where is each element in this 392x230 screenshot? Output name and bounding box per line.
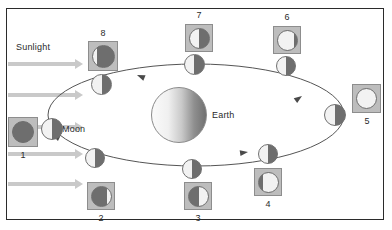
phase-disc-waning-gibbous xyxy=(277,30,298,51)
phase-disc-full-moon xyxy=(356,88,377,109)
sunlight-arrow-5 xyxy=(8,182,76,186)
orbital-moon-position-7 xyxy=(184,54,205,75)
phase-number-label-2: 2 xyxy=(91,213,111,223)
moon-label: Moon xyxy=(62,124,85,134)
earth-sphere xyxy=(151,87,207,143)
earth-label: Earth xyxy=(212,110,235,120)
orbital-moon-position-1 xyxy=(41,118,63,140)
phase-number-label-8: 8 xyxy=(93,28,113,38)
orbital-moon-position-2 xyxy=(85,148,105,168)
phase-box-7 xyxy=(185,24,213,52)
sunlight-label: Sunlight xyxy=(16,42,50,52)
phase-number-label-3: 3 xyxy=(188,213,208,223)
phase-box-6 xyxy=(273,26,301,54)
phase-number-label-7: 7 xyxy=(189,10,209,20)
phase-disc-waxing-gibbous xyxy=(258,172,279,193)
phase-number-label-5: 5 xyxy=(357,116,377,126)
phase-box-2 xyxy=(87,182,115,210)
phase-number-label-4: 4 xyxy=(258,199,278,209)
phase-disc-first-quarter xyxy=(188,186,209,207)
phase-box-5 xyxy=(352,84,381,113)
phase-box-1 xyxy=(8,117,38,147)
phase-number-label-1: 1 xyxy=(13,150,33,160)
phase-number-label-6: 6 xyxy=(277,12,297,22)
orbital-moon-position-8 xyxy=(91,74,112,95)
phase-disc-new-moon xyxy=(12,121,34,143)
phase-disc-waning-crescent xyxy=(92,45,115,68)
sunlight-arrow-1 xyxy=(8,62,76,66)
phase-disc-waxing-crescent xyxy=(91,186,112,207)
sunlight-arrow-2 xyxy=(8,93,76,97)
phase-disc-last-quarter xyxy=(189,28,210,49)
orbital-moon-position-3 xyxy=(182,159,202,179)
moon-phases-diagram: Sunlight Earth Moon 12345678 xyxy=(0,0,392,230)
phase-box-8 xyxy=(88,41,118,71)
phase-box-3 xyxy=(184,182,212,210)
orbital-moon-position-4 xyxy=(258,144,278,164)
orbital-moon-position-5 xyxy=(324,104,346,126)
phase-box-4 xyxy=(254,168,282,196)
orbital-moon-position-6 xyxy=(276,56,296,76)
